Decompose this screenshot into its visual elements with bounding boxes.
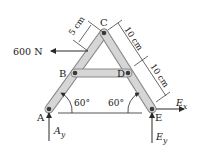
label-B: B [59, 68, 66, 79]
angle-label-A: 60° [74, 98, 90, 108]
truss-diagram: C B D A E 600 N 5 cm 10 cm 10 cm 60° 60°… [0, 0, 198, 155]
dimension-label-CD: 10 cm [122, 25, 145, 53]
angle-label-E: 60° [108, 98, 124, 108]
label-E: E [155, 112, 162, 123]
angle-arc-E [128, 93, 139, 113]
load-label: 600 N [13, 46, 42, 57]
dimension-label-5cm: 5 cm [66, 14, 86, 37]
reaction-label-Ay: Ay [53, 125, 66, 139]
label-D: D [117, 68, 125, 79]
diagram-canvas: C B D A E 600 N 5 cm 10 cm 10 cm 60° 60°… [0, 0, 198, 155]
label-A: A [36, 112, 45, 123]
dimension-label-DE: 10 cm [148, 62, 171, 90]
label-C: C [100, 17, 108, 28]
reaction-label-Ey: Ey [155, 131, 168, 145]
